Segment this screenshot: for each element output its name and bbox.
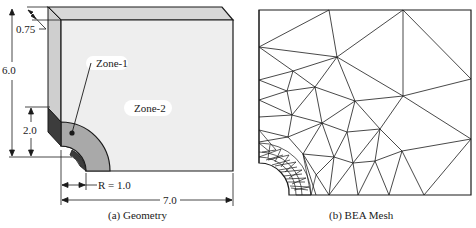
mesh-panel: [259, 10, 471, 195]
mesh-elements: [259, 10, 471, 195]
caption-b: (b) BEA Mesh: [329, 209, 394, 222]
zone1-leader-dot: [69, 130, 74, 135]
plate-left-face: [48, 7, 61, 122]
dim-height-label: 6.0: [2, 64, 16, 76]
zone1-label: Zone-1: [96, 57, 128, 69]
caption-a: (a) Geometry: [108, 209, 167, 222]
plate-top-face: [48, 7, 233, 20]
zone2-label: Zone-2: [134, 102, 166, 114]
geometry-panel: Zone-1 Zone-2 0.75 6.0: [2, 7, 233, 222]
dim-width-label: 7.0: [163, 194, 177, 206]
dim-thickness-label: 0.75: [16, 23, 36, 35]
mesh-refined-zone: [259, 130, 316, 195]
dim-width: [62, 173, 233, 206]
mesh-boundary: [259, 10, 471, 195]
dim-radius-label: R = 1.0: [98, 179, 131, 191]
dim-zone1-height-label: 2.0: [23, 124, 37, 136]
figure-canvas: Zone-1 Zone-2 0.75 6.0: [0, 0, 476, 228]
